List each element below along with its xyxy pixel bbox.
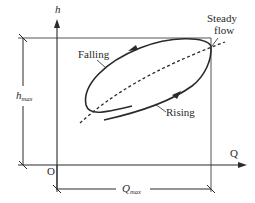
- steady-flow-label-line1: Steady: [207, 12, 237, 24]
- falling-direction-arrow-icon: [128, 45, 138, 51]
- falling-leader: [97, 60, 106, 68]
- falling-label: Falling: [78, 48, 110, 60]
- steady-flow-leader: [212, 38, 218, 46]
- loop-rating-curve-diagram: h Q O hmax Qmax Steady flow Falling: [0, 0, 255, 203]
- y-axis-label: h: [55, 3, 61, 15]
- hmax-label: hmax: [16, 89, 32, 102]
- origin-label: O: [47, 165, 55, 177]
- y-axis-arrow-icon: [54, 19, 60, 28]
- qmax-label: Qmax: [122, 182, 141, 195]
- rising-label: Rising: [166, 106, 195, 118]
- x-axis-arrow-icon: [238, 162, 247, 168]
- x-axis-label: Q: [230, 147, 238, 159]
- steady-flow-label-line2: flow: [214, 24, 234, 36]
- rising-leader: [155, 104, 166, 112]
